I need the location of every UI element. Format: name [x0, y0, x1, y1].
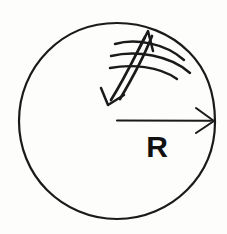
diagram-canvas: R: [0, 0, 227, 234]
diagram-background: [0, 0, 227, 234]
radius-label: R: [146, 130, 168, 163]
circle-radius-diagram: R: [0, 0, 227, 234]
